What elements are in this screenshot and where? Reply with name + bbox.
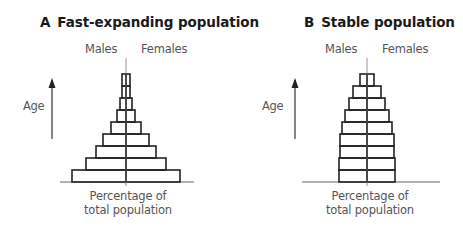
- male-bar: [360, 74, 367, 86]
- female-bar: [126, 122, 141, 134]
- male-bar: [103, 134, 126, 146]
- male-bar: [120, 98, 126, 110]
- female-bar: [367, 98, 385, 110]
- male-bar: [342, 122, 367, 134]
- female-bar: [126, 134, 149, 146]
- pyramids-graphic: [0, 0, 463, 232]
- female-bar: [126, 146, 156, 158]
- male-bar: [111, 122, 126, 134]
- male-bar: [353, 86, 367, 98]
- female-bar: [367, 146, 394, 158]
- female-bar: [367, 170, 395, 182]
- female-bar: [126, 170, 180, 182]
- female-bar: [126, 74, 130, 86]
- arrowhead-icon: [49, 78, 56, 88]
- female-bar: [126, 110, 135, 122]
- male-bar: [339, 170, 367, 182]
- arrowhead-icon: [292, 78, 299, 88]
- male-bar: [340, 146, 367, 158]
- female-bar: [367, 134, 394, 146]
- male-bar: [339, 158, 367, 170]
- female-bar: [367, 74, 374, 86]
- female-bar: [367, 110, 389, 122]
- male-bar: [117, 110, 126, 122]
- female-bar: [367, 122, 392, 134]
- male-bar: [340, 134, 367, 146]
- female-bar: [367, 86, 381, 98]
- male-bar: [86, 158, 126, 170]
- male-bar: [349, 98, 367, 110]
- female-bar: [126, 86, 130, 98]
- male-bar: [96, 146, 126, 158]
- male-bar: [345, 110, 367, 122]
- female-bar: [367, 158, 395, 170]
- male-bar: [72, 170, 126, 182]
- female-bar: [126, 158, 166, 170]
- female-bar: [126, 98, 132, 110]
